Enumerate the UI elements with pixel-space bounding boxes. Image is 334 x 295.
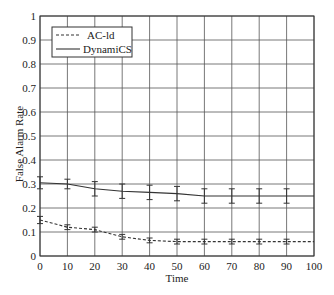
y-tick-label: 0.9 (22, 34, 36, 46)
x-tick-label: 30 (117, 260, 129, 272)
series-dynamics (37, 177, 314, 203)
y-tick-label: 0 (31, 250, 37, 262)
x-tick-label: 70 (226, 260, 238, 272)
x-tick-label: 60 (199, 260, 211, 272)
x-tick-label: 90 (281, 260, 293, 272)
x-tick-label: 50 (172, 260, 184, 272)
series-ac-ld (37, 216, 314, 244)
x-axis-ticks: 0102030405060708090100 (37, 260, 323, 272)
x-tick-label: 40 (144, 260, 156, 272)
x-tick-label: 0 (37, 260, 43, 272)
x-tick-label: 10 (62, 260, 74, 272)
y-tick-label: 0.7 (22, 82, 36, 94)
x-tick-label: 80 (254, 260, 266, 272)
legend-label-ac-ld: AC-ld (87, 29, 115, 41)
y-tick-label: 1 (31, 10, 37, 22)
legend: AC-ld DynamiCS (52, 27, 132, 57)
y-tick-label: 0.1 (22, 226, 36, 238)
chart-figure: 0102030405060708090100 00.10.20.30.40.50… (0, 0, 334, 295)
y-axis-label: False Alarm Rate (13, 106, 25, 182)
data-series (37, 177, 314, 244)
legend-label-dynamics: DynamiCS (83, 43, 132, 55)
false-alarm-rate-chart: 0102030405060708090100 00.10.20.30.40.50… (0, 0, 334, 295)
x-tick-label: 20 (89, 260, 101, 272)
x-axis-label: Time (166, 272, 189, 284)
y-tick-label: 0.8 (22, 58, 36, 70)
x-tick-label: 100 (306, 260, 323, 272)
y-tick-label: 0.2 (22, 202, 36, 214)
